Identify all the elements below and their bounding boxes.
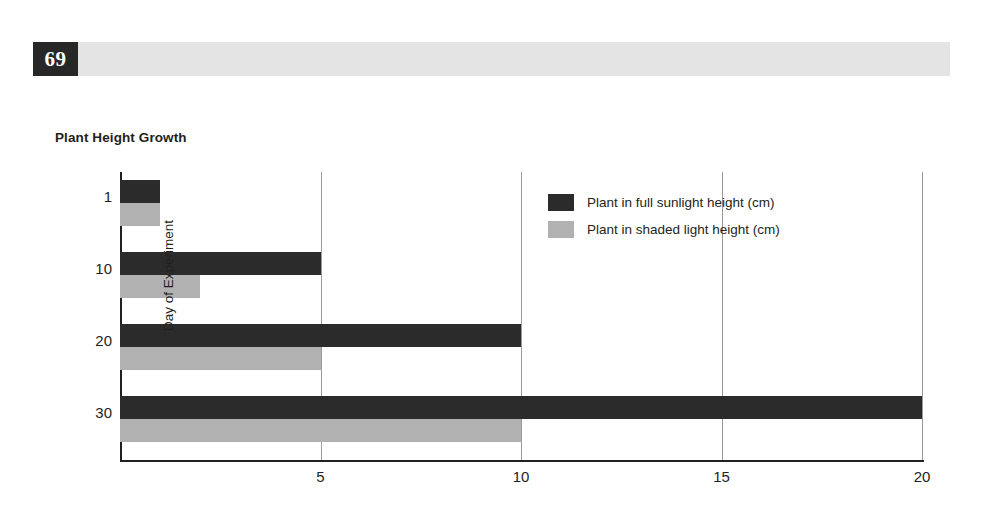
y-tick-30: 30 bbox=[52, 404, 112, 421]
bar-day-20-series-2 bbox=[120, 347, 321, 370]
y-tick-20: 20 bbox=[52, 332, 112, 349]
bar-day-30-series-1 bbox=[120, 396, 922, 419]
bar-day-1-series-2 bbox=[120, 203, 160, 226]
chart-legend: Plant in full sunlight height (cm)Plant … bbox=[548, 190, 780, 244]
bar-day-30-series-2 bbox=[120, 419, 521, 442]
x-tick-15: 15 bbox=[692, 468, 752, 485]
x-axis-line bbox=[120, 460, 924, 462]
x-tick-10: 10 bbox=[491, 468, 551, 485]
legend-item-2: Plant in shaded light height (cm) bbox=[548, 217, 780, 241]
plot-area: Day of Experiment bbox=[120, 172, 922, 460]
x-tick-5: 5 bbox=[291, 468, 351, 485]
y-tick-10: 10 bbox=[52, 260, 112, 277]
bar-day-1-series-1 bbox=[120, 180, 160, 203]
y-axis-title: Day of Experiment bbox=[161, 181, 176, 371]
bar-day-10-series-1 bbox=[120, 252, 321, 275]
bar-day-20-series-1 bbox=[120, 324, 521, 347]
legend-label-2: Plant in shaded light height (cm) bbox=[587, 222, 780, 237]
gridline-20 bbox=[922, 172, 923, 460]
legend-swatch-1 bbox=[548, 194, 574, 211]
legend-swatch-2 bbox=[548, 221, 574, 238]
y-tick-1: 1 bbox=[52, 188, 112, 205]
x-tick-20: 20 bbox=[892, 468, 952, 485]
legend-item-1: Plant in full sunlight height (cm) bbox=[548, 190, 780, 214]
legend-label-1: Plant in full sunlight height (cm) bbox=[587, 195, 775, 210]
bar-chart: Day of Experiment 1102030 5101520 Plant … bbox=[0, 0, 987, 524]
